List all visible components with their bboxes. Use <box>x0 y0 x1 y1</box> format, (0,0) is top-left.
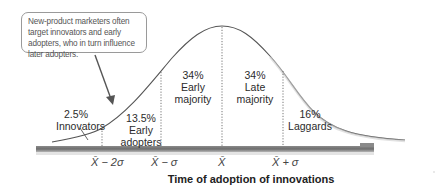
segment-innovators: 2.5% Innovators <box>56 108 96 132</box>
callout-text: New-product marketers often target innov… <box>28 17 135 59</box>
tick-minus-sigma: X̄ − σ <box>151 156 178 168</box>
early-adopters-name-2: adopters <box>120 136 162 148</box>
innovators-percent: 2.5% <box>56 108 96 120</box>
laggards-percent: 16% <box>287 108 333 120</box>
early-adopters-name-1: Early <box>120 124 162 136</box>
tick-minus-2sigma: X̄ − 2σ <box>91 156 124 168</box>
laggards-name: Laggards <box>287 120 333 132</box>
callout-box: New-product marketers often target innov… <box>21 12 147 53</box>
late-majority-percent: 34% <box>232 69 278 81</box>
late-majority-name-2: majority <box>232 93 278 105</box>
callout-arrow-icon <box>95 55 115 105</box>
late-majority-name-1: Late <box>232 81 278 93</box>
early-majority-name-1: Early <box>170 81 216 93</box>
segment-laggards: 16% Laggards <box>287 108 333 132</box>
axis-bar <box>36 146 374 152</box>
segment-early-adopters: 13.5% Early adopters <box>120 112 162 148</box>
segment-late-majority: 34% Late majority <box>232 69 278 105</box>
tick-plus-sigma: X̄ + σ <box>272 156 299 168</box>
tick-mean: X̄ <box>218 156 225 168</box>
adoption-curve-diagram: New-product marketers often target innov… <box>0 0 448 192</box>
innovators-name: Innovators <box>56 120 96 132</box>
early-majority-name-2: majority <box>170 93 216 105</box>
early-adopters-percent: 13.5% <box>120 112 162 124</box>
axis-title: Time of adoption of innovations <box>146 173 356 185</box>
early-majority-percent: 34% <box>170 69 216 81</box>
segment-early-majority: 34% Early majority <box>170 69 216 105</box>
